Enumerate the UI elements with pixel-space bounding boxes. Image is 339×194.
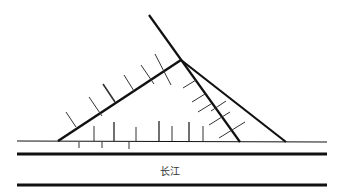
fault-diagonal-line [149,15,240,142]
triangle-right-edge [181,60,286,142]
triangle-left-edge [58,60,181,141]
base-upper-ticks [94,121,203,141]
left-edge-hatches [66,54,171,127]
river-label: 长江 [160,163,180,178]
right-wedge-hatches [183,80,245,138]
river-bank-thin-line [17,141,327,142]
base-lower-ticks [79,142,129,149]
